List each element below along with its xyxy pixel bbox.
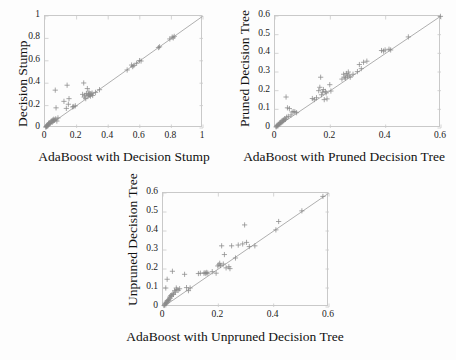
scatter-layer-unpruned-decision-tree bbox=[163, 193, 329, 307]
panel-unpruned-decision-tree: Unpruned Decision Tree AdaBoost with Unp… bbox=[114, 180, 364, 360]
x-tick-label: 0.4 bbox=[267, 310, 279, 320]
y-tick-label: 0.3 bbox=[248, 66, 270, 76]
y-tick-label: 0 bbox=[18, 122, 40, 132]
x-tick-label: 0 bbox=[42, 131, 47, 141]
y-tick-label: 0.6 bbox=[18, 55, 40, 65]
xtitle-decision-stump: AdaBoost with Decision Stump bbox=[14, 150, 234, 164]
x-tick-label: 0.6 bbox=[133, 131, 145, 141]
y-tick-label: 0.8 bbox=[18, 33, 40, 43]
y-tick-label: 0.5 bbox=[136, 206, 158, 216]
y-tick-label: 0.4 bbox=[248, 48, 270, 58]
xtitle-unpruned-decision-tree: AdaBoost with Unpruned Decision Tree bbox=[104, 330, 366, 344]
y-tick-label: 0.3 bbox=[136, 244, 158, 254]
xtitle-pruned-decision-tree: AdaBoost with Pruned Decision Tree bbox=[236, 150, 452, 164]
y-tick-label: 0 bbox=[248, 122, 270, 132]
y-tick-label: 0.6 bbox=[136, 187, 158, 197]
y-tick-label: 0.1 bbox=[136, 282, 158, 292]
x-tick-label: 0.4 bbox=[101, 131, 113, 141]
y-tick-label: 0 bbox=[136, 301, 158, 311]
x-tick-label: 0.4 bbox=[379, 131, 391, 141]
x-tick-label: 0.6 bbox=[434, 131, 446, 141]
x-tick-label: 0 bbox=[160, 310, 165, 320]
identity-reference-line bbox=[163, 193, 329, 307]
x-tick-label: 0.2 bbox=[70, 131, 82, 141]
y-tick-label: 0.5 bbox=[248, 29, 270, 39]
y-tick-label: 0.4 bbox=[136, 225, 158, 235]
x-tick-label: 0.6 bbox=[322, 310, 334, 320]
x-tick-label: 0.2 bbox=[211, 310, 223, 320]
x-tick-label: 0 bbox=[272, 131, 277, 141]
panel-pruned-decision-tree: Pruned Decision Tree AdaBoost with Prune… bbox=[228, 0, 456, 178]
scatter-layer-pruned-decision-tree bbox=[275, 16, 441, 128]
plot-area-pruned-decision-tree bbox=[274, 15, 440, 127]
x-tick-label: 0.8 bbox=[164, 131, 176, 141]
identity-reference-line bbox=[45, 16, 203, 128]
y-tick-label: 0.2 bbox=[136, 263, 158, 273]
plot-area-decision-stump bbox=[44, 15, 202, 127]
panel-decision-stump: Decision Stump AdaBoost with Decision St… bbox=[0, 0, 228, 178]
x-tick-label: 0.2 bbox=[323, 131, 335, 141]
figure-container: Decision Stump AdaBoost with Decision St… bbox=[0, 0, 456, 360]
y-tick-label: 0.6 bbox=[248, 10, 270, 20]
y-tick-label: 0.2 bbox=[248, 85, 270, 95]
y-tick-label: 1 bbox=[18, 10, 40, 20]
scatter-layer-decision-stump bbox=[45, 16, 203, 128]
plot-area-unpruned-decision-tree bbox=[162, 192, 328, 306]
y-tick-label: 0.4 bbox=[18, 77, 40, 87]
y-tick-label: 0.1 bbox=[248, 104, 270, 114]
y-tick-label: 0.2 bbox=[18, 100, 40, 110]
x-tick-label: 1 bbox=[200, 131, 205, 141]
data-points bbox=[162, 194, 326, 308]
